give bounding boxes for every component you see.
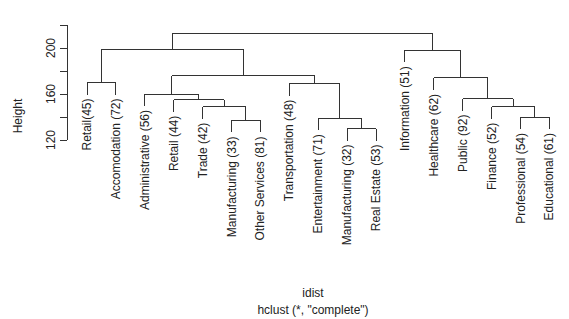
leaf-label: Professional (54) [514,133,528,224]
y-tick-label: 160 [44,84,58,104]
leaf-label: Real Estate (53) [369,145,383,232]
leaf-labels: Retail(45)Accomodation (72)Administrativ… [80,66,556,245]
leaf-label: Retail (44) [167,116,181,171]
leaf-label: Entertainment (71) [311,134,325,233]
y-tick-label: 120 [44,130,58,150]
leaf-label: Trade (42) [196,123,210,179]
leaf-label: Information (51) [398,66,412,151]
leaf-label: Educational (61) [542,133,556,220]
method-subtitle: hclust (*, "complete") [257,303,368,317]
leaf-label: Manufacturing (33) [225,136,239,237]
leaf-label: Accomodation (72) [109,98,123,199]
leaf-label: Manufacturing (32) [340,144,354,245]
dendrogram-chart: 120160200 Retail(45)Accomodation (72)Adm… [0,0,569,319]
y-tick-label: 200 [44,38,58,58]
leaf-label: Finance (52) [485,123,499,190]
leaf-label: Administrative (56) [138,110,152,210]
y-axis-label: Height [11,98,25,133]
leaf-label: Other Services (81) [253,136,267,240]
leaf-label: Healthcare (62) [427,94,441,177]
dendrogram-tree [87,33,549,140]
x-axis-label: idist [302,286,324,300]
leaf-label: Transportation (48) [282,100,296,202]
y-axis: 120160200 [44,25,67,150]
leaf-label: Retail(45) [80,99,94,151]
leaf-label: Public (92) [456,115,470,172]
